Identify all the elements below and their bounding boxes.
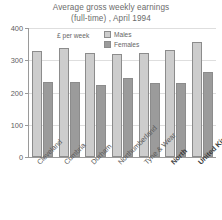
legend-label-males: Males (114, 31, 132, 38)
legend-swatch-males-icon (104, 31, 111, 38)
y-axis-tick-mark (25, 93, 28, 94)
chart-title-line-2: (full-time) , April 1994 (0, 13, 222, 24)
bar-group (32, 28, 53, 157)
bar-males (32, 51, 42, 157)
bar-males (85, 53, 95, 157)
legend-swatch-females-icon (104, 41, 111, 48)
legend-label-females: Females (114, 41, 139, 48)
y-axis-tick-label: 400 (11, 24, 23, 33)
chart-title: Average gross weekly earnings (full-time… (0, 2, 222, 24)
bar-males (192, 42, 202, 157)
y-axis-tick-mark (25, 157, 28, 158)
bar-group (59, 28, 80, 157)
y-axis-tick-label: 100 (11, 120, 23, 129)
y-axis-tick-mark (25, 28, 28, 29)
legend-unit-label: £ per week (57, 32, 89, 39)
y-axis-tick-mark (25, 125, 28, 126)
bar-group (192, 28, 213, 157)
bar-males (112, 54, 122, 157)
chart-title-line-1: Average gross weekly earnings (53, 3, 170, 12)
chart-figure: Average gross weekly earnings (full-time… (0, 0, 222, 220)
y-axis-tick-label: 0 (19, 153, 23, 162)
y-axis-tick-mark (25, 60, 28, 61)
legend-entry-males: Males (104, 31, 132, 38)
legend-entry-females: Females (104, 41, 139, 48)
y-axis-tick-label: 300 (11, 56, 23, 65)
y-axis-tick-label: 200 (11, 88, 23, 97)
x-axis-category-labels: ClevelandCumbriaDurhamNorthumberlandTyne… (28, 160, 216, 218)
